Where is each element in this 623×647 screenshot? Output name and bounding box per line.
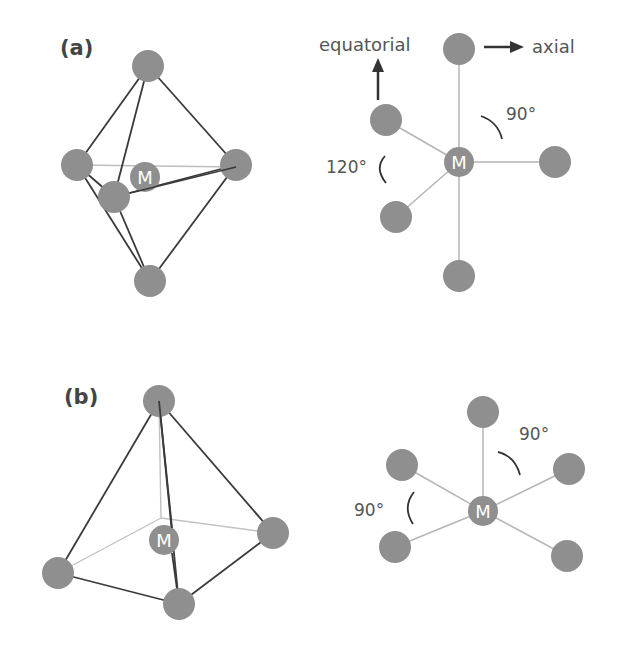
atom-front xyxy=(163,588,195,620)
atom-upper-right xyxy=(553,453,585,485)
atom-axial-bottom xyxy=(443,260,475,292)
atom-equatorial-lower-left xyxy=(380,201,412,233)
angle-arc-equatorial xyxy=(380,156,386,183)
atom-equatorial-right xyxy=(539,146,571,178)
arrow-right-icon xyxy=(510,41,524,53)
atom-lower-right xyxy=(551,540,583,572)
atom-front xyxy=(98,181,130,213)
atom-left xyxy=(61,149,93,181)
atom-right xyxy=(220,149,252,181)
atom-bottom xyxy=(134,265,166,297)
atom-right xyxy=(257,517,289,549)
atom-top xyxy=(467,396,499,428)
panel-a-2d-projection: M equatorial axial 90° 120° xyxy=(319,33,575,292)
axial-label: axial xyxy=(532,36,575,57)
figure-canvas: (a) M xyxy=(0,0,623,647)
center-atom-label: M xyxy=(156,530,172,551)
atom-lower-left xyxy=(379,531,411,563)
angle-arc-top xyxy=(498,452,520,475)
atom-axial-top xyxy=(443,33,475,65)
center-atom-label: M xyxy=(475,501,491,522)
panel-b-2d-projection: M 90° 90° xyxy=(354,396,585,572)
center-atom-label: M xyxy=(451,152,467,173)
panel-b-label: (b) xyxy=(64,385,98,409)
angle-label-left: 90° xyxy=(354,500,384,520)
edges xyxy=(58,401,273,604)
atom-left xyxy=(42,557,74,589)
angle-label-90: 90° xyxy=(506,104,536,124)
arrow-up-icon xyxy=(372,58,384,72)
bond-back xyxy=(77,165,236,167)
equatorial-label: equatorial xyxy=(319,34,410,55)
angle-arc-axial xyxy=(481,116,502,139)
panel-a-label: (a) xyxy=(60,36,93,60)
angle-arc-left xyxy=(408,492,414,524)
molecular-geometry-figure: (a) M xyxy=(0,0,623,647)
angle-label-120: 120° xyxy=(326,157,367,177)
panel-a-3d-structure: (a) M xyxy=(60,36,252,297)
atom-top xyxy=(132,50,164,82)
atom-equatorial-upper-left xyxy=(370,104,402,136)
center-atom-label: M xyxy=(137,167,153,188)
panel-b-3d-structure: (b) M xyxy=(42,385,289,620)
atom-upper-left xyxy=(386,449,418,481)
angle-label-top: 90° xyxy=(519,424,549,444)
